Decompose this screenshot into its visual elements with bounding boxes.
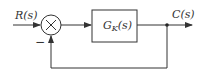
input-label: R(s) <box>14 9 38 22</box>
output-label: C(s) <box>172 8 195 21</box>
block-label: GK(s) <box>103 19 132 33</box>
diagram-canvas: R(s) − GK(s) C(s) <box>0 0 203 73</box>
summing-junction <box>41 15 61 35</box>
block-diagram: R(s) − GK(s) C(s) <box>0 0 203 73</box>
minus-sign: − <box>35 35 45 49</box>
